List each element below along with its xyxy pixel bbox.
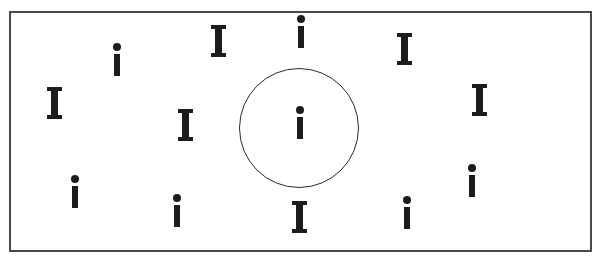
glyph-serif-bottom — [178, 137, 193, 141]
glyph-serif-bottom — [472, 112, 487, 116]
glyph-lowercase-i: i — [296, 106, 304, 139]
glyph-stem — [297, 117, 303, 139]
glyph-capital-i: I — [292, 201, 307, 233]
glyph-lowercase-i: i — [297, 15, 305, 48]
glyph-dot — [173, 194, 181, 202]
glyph-serif-bottom — [47, 115, 62, 119]
glyph-capital-i: I — [397, 33, 412, 65]
glyph-dot — [468, 164, 476, 172]
glyph-capital-i: I — [472, 84, 487, 116]
glyph-capital-i: I — [178, 109, 193, 141]
glyph-dot — [113, 43, 121, 51]
glyph-serif-bottom — [211, 53, 226, 57]
glyph-serif-bottom — [292, 229, 307, 233]
glyph-serif-bottom — [397, 61, 412, 65]
glyph-capital-i: I — [47, 87, 62, 119]
glyph-dot — [297, 15, 305, 23]
glyph-stem — [72, 186, 78, 208]
glyph-dot — [403, 196, 411, 204]
glyph-dot — [71, 175, 79, 183]
glyph-lowercase-i: i — [403, 196, 411, 229]
glyph-stem — [298, 26, 304, 48]
glyph-lowercase-i: i — [113, 43, 121, 76]
glyph-stem — [469, 175, 475, 197]
glyph-lowercase-i: i — [173, 194, 181, 227]
glyph-dot — [296, 106, 304, 114]
glyph-stem — [404, 207, 410, 229]
glyph-lowercase-i: i — [71, 175, 79, 208]
glyph-stem — [174, 205, 180, 227]
glyph-capital-i: I — [211, 25, 226, 57]
glyph-lowercase-i: i — [468, 164, 476, 197]
glyph-stem — [114, 54, 120, 76]
